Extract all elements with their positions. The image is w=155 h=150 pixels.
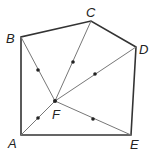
label-F: F: [52, 107, 61, 122]
midpoint-dot: [36, 116, 40, 120]
label-E: E: [130, 137, 139, 150]
label-B: B: [6, 31, 15, 46]
midpoint-dot: [71, 60, 75, 64]
point-F-dot: [53, 99, 57, 103]
label-C: C: [86, 5, 96, 20]
midpoint-dot: [36, 68, 40, 72]
midpoint-dot: [93, 72, 97, 76]
label-A: A: [7, 136, 17, 150]
pentagon-diagram: A B C D E F: [0, 0, 155, 150]
midpoint-dots: [36, 60, 97, 121]
label-D: D: [139, 42, 148, 57]
midpoint-dot: [91, 117, 95, 121]
